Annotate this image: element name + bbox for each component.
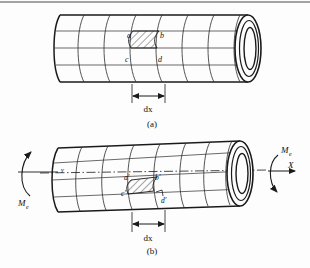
differential-element-a xyxy=(129,31,159,48)
torque-left-subscript: e xyxy=(26,204,29,210)
dimension-label-dx-a: dx xyxy=(144,104,154,114)
shear-strain-label: γ xyxy=(61,166,64,174)
torque-right-label: M xyxy=(280,145,289,155)
dimension-label-dx-b: dx xyxy=(144,233,154,243)
element-label-b: b xyxy=(160,31,164,40)
element-label-c-prime: c' xyxy=(121,189,126,198)
differential-element-b xyxy=(127,177,157,194)
element-label-b-prime: b' xyxy=(155,173,161,182)
torsion-figure: a b c d dx (a) xyxy=(0,0,310,268)
caption-b: (b) xyxy=(147,246,158,256)
x-axis-label: X xyxy=(287,160,294,170)
tube-b-bore-ellipse xyxy=(236,154,248,194)
caption-a: (a) xyxy=(147,119,157,129)
torque-left-label: M xyxy=(17,198,26,208)
element-label-c: c xyxy=(125,55,129,64)
element-label-a-prime: a' xyxy=(124,173,130,182)
torque-right-subscript: e xyxy=(289,151,292,157)
tube-a-bore-ellipse xyxy=(244,28,256,70)
element-label-a: a xyxy=(127,31,131,40)
element-label-d-prime: d' xyxy=(161,196,167,205)
